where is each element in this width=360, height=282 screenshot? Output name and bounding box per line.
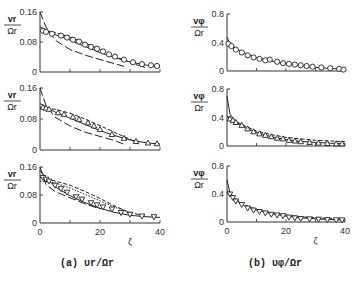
svg-text:Ωr: Ωr: [7, 102, 17, 112]
y-tick-label: 0: [32, 67, 37, 77]
data-point: [251, 55, 256, 60]
data-point: [286, 61, 291, 66]
y-axis-label: vφ: [193, 91, 205, 101]
data-point: [263, 211, 269, 216]
data-point: [85, 120, 91, 125]
curve-solid: [40, 171, 160, 218]
data-point: [106, 52, 111, 57]
data-point: [292, 62, 297, 67]
panel-b3: 00.40.8vφΩr02040ζ: [191, 161, 350, 246]
data-point: [268, 212, 274, 217]
data-point: [251, 129, 257, 134]
caption-b: (b) υφ/Ωr: [248, 258, 302, 269]
y-tick-label: 0.8: [211, 84, 224, 94]
data-point: [148, 63, 153, 68]
svg-text:Ωr: Ωr: [194, 28, 204, 38]
data-point: [112, 54, 117, 59]
y-tick-label: 0.16: [19, 7, 37, 17]
data-point: [310, 64, 315, 69]
data-point: [298, 217, 304, 222]
data-point: [100, 205, 106, 210]
panel-b1: 00.40.8vφΩr: [191, 9, 346, 76]
data-point: [70, 114, 76, 119]
x-tick-label: 40: [340, 226, 350, 236]
x-tick-label: 20: [281, 226, 291, 236]
curve-dashed: [227, 191, 345, 219]
x-tick-label: 0: [224, 226, 229, 236]
data-point: [97, 126, 103, 131]
caption-a: (a) υr/Ωr: [60, 258, 114, 269]
data-point: [154, 63, 159, 68]
x-axis-label: ζ: [314, 236, 318, 246]
data-point: [245, 206, 251, 211]
data-point: [274, 213, 280, 218]
data-point: [251, 208, 257, 213]
y-tick-label: 0.4: [211, 189, 224, 199]
data-point: [49, 31, 54, 36]
data-point: [257, 210, 263, 215]
data-point: [280, 61, 285, 66]
y-axis-label: vr: [8, 14, 17, 24]
data-point: [82, 42, 87, 47]
panel-a2: 00.080.16vrΩr: [4, 83, 160, 155]
data-point: [100, 49, 105, 54]
curve-longdash: [40, 12, 124, 66]
y-tick-label: 0.8: [211, 9, 224, 19]
data-point: [319, 65, 324, 70]
panel-b2: 00.40.8vφΩr: [191, 84, 345, 151]
data-point: [130, 60, 135, 65]
y-tick-label: 0.8: [211, 161, 224, 171]
y-tick-label: 0: [219, 66, 224, 76]
y-tick-label: 0.16: [19, 83, 37, 93]
y-tick-label: 0.4: [211, 38, 224, 48]
y-axis-label: vφ: [193, 168, 205, 178]
data-point: [245, 53, 250, 58]
panel-a3: 00.080.16vrΩr02040ζ: [4, 162, 165, 247]
data-point: [64, 35, 69, 40]
data-point: [139, 62, 144, 67]
data-point: [328, 66, 333, 71]
data-point: [233, 47, 238, 52]
y-tick-label: 0.08: [19, 37, 37, 47]
data-point: [94, 46, 99, 51]
y-tick-label: 0: [32, 145, 37, 155]
data-point: [121, 57, 126, 62]
figure-canvas: 00.080.16vrΩr00.080.16vrΩr00.080.16vrΩr0…: [0, 0, 360, 282]
y-tick-label: 0: [219, 141, 224, 151]
y-tick-label: 0: [32, 218, 37, 228]
data-point: [286, 215, 292, 220]
y-tick-label: 0.4: [211, 113, 224, 123]
x-axis-label: ζ: [128, 237, 132, 247]
data-point: [298, 63, 303, 68]
data-point: [257, 56, 262, 61]
data-point: [316, 217, 322, 222]
data-point: [58, 33, 63, 38]
y-axis-label: vr: [8, 90, 17, 100]
data-point: [341, 67, 346, 72]
y-tick-label: 0.16: [19, 162, 37, 172]
data-point: [88, 44, 93, 49]
data-point: [292, 216, 298, 221]
curve-dashed: [227, 116, 345, 142]
data-point: [275, 59, 280, 64]
y-axis-label: vr: [8, 169, 17, 179]
data-point: [43, 29, 48, 34]
y-axis-label: vφ: [193, 16, 205, 26]
data-point: [229, 43, 234, 48]
svg-text:Ωr: Ωr: [194, 180, 204, 190]
svg-text:Ωr: Ωr: [194, 103, 204, 113]
data-point: [267, 57, 272, 62]
data-point: [304, 63, 309, 68]
panel-a1: 00.080.16vrΩr: [4, 7, 160, 77]
svg-text:Ωr: Ωr: [7, 181, 17, 191]
y-tick-label: 0.08: [19, 190, 37, 200]
x-tick-label: 40: [155, 227, 165, 237]
y-tick-label: 0.08: [19, 114, 37, 124]
data-point: [76, 39, 81, 44]
curve-solid: [227, 96, 345, 144]
data-point: [70, 37, 75, 42]
y-tick-label: 0: [219, 217, 224, 227]
svg-text:Ωr: Ωr: [7, 26, 17, 36]
x-tick-label: 0: [37, 227, 42, 237]
data-point: [239, 50, 244, 55]
